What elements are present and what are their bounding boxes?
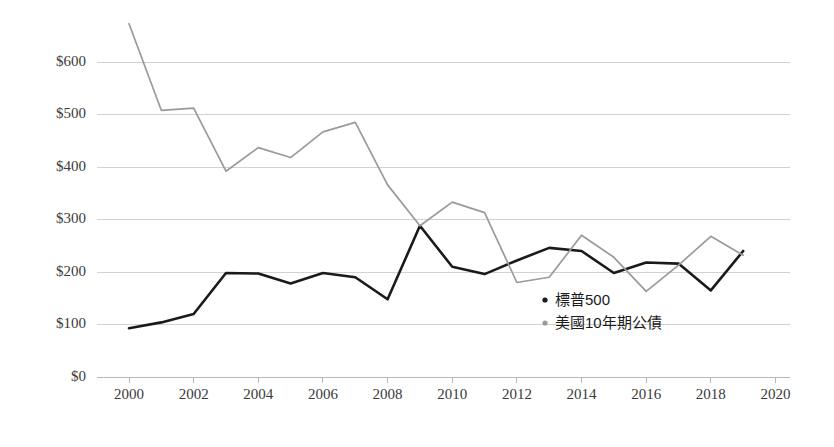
x-tick-label: 2002 [179, 386, 209, 402]
y-tick-label: $600 [56, 53, 86, 69]
y-tick-label: $200 [56, 263, 86, 279]
x-tick-label: 2008 [373, 386, 403, 402]
series-line-2 [129, 24, 743, 292]
x-tick-label: 2006 [308, 386, 339, 402]
y-tick-label: $500 [56, 105, 86, 121]
chart-container: $0$100$200$300$400$500$600 2000200220042… [0, 0, 834, 447]
x-tick-label: 2000 [114, 386, 144, 402]
series-line-1 [129, 226, 743, 328]
x-axis-tick-marks [129, 377, 776, 383]
line-chart: $0$100$200$300$400$500$600 2000200220042… [0, 0, 834, 447]
y-tick-label: $100 [56, 315, 86, 331]
x-tick-label: 2016 [631, 386, 662, 402]
legend-label-2: 美國10年期公債 [555, 314, 662, 331]
legend-marker-2 [542, 320, 547, 325]
y-tick-label: $300 [56, 210, 86, 226]
x-tick-label: 2012 [502, 386, 532, 402]
y-tick-label: $400 [56, 158, 86, 174]
x-tick-label: 2018 [696, 386, 726, 402]
x-axis-tick-labels: 2000200220042006200820102012201420162018… [114, 386, 791, 402]
x-tick-label: 2004 [243, 386, 274, 402]
chart-legend: 標普500美國10年期公債 [542, 291, 661, 331]
legend-marker-1 [542, 297, 547, 302]
gridlines-group [97, 62, 790, 377]
legend-label-1: 標普500 [555, 291, 610, 308]
y-axis-tick-labels: $0$100$200$300$400$500$600 [56, 53, 86, 384]
x-tick-label: 2010 [437, 386, 467, 402]
x-tick-label: 2020 [761, 386, 791, 402]
y-tick-label: $0 [71, 368, 86, 384]
x-tick-label: 2014 [567, 386, 598, 402]
series-lines-group [129, 24, 743, 329]
